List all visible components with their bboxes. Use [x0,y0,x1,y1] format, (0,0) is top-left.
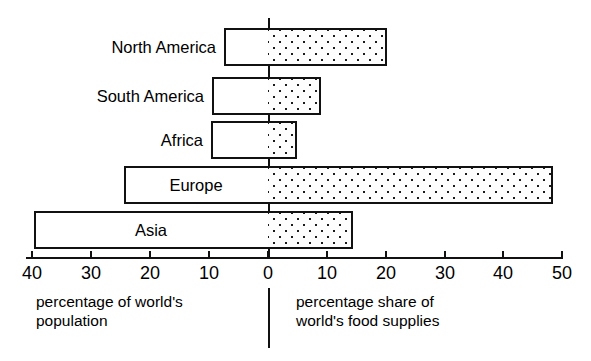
bar-population [224,28,268,66]
x-axis-tick-label: 20 [130,262,170,284]
x-axis-tick [149,251,151,258]
bar-food-share [268,28,387,66]
x-axis-tick-label: 10 [307,262,347,284]
axis-label-right-line1: percentage share of [296,292,546,311]
x-axis-tick-label: 10 [189,262,229,284]
bar-population [211,121,268,159]
x-axis-tick [385,251,387,258]
axis-label-right: percentage share of world's food supplie… [296,292,546,330]
x-axis-tick-label: 20 [366,262,406,284]
axis-label-left-line1: percentage of world's [36,292,256,311]
x-axis-tick [561,251,563,258]
x-axis-tick [90,251,92,258]
x-axis-line [26,257,563,259]
caption-divider [268,288,270,348]
x-axis-tick [31,251,33,258]
bar-row: North America [0,28,591,66]
bar-category-label-outside: North America [20,28,216,66]
bar-population [124,166,268,204]
axis-label-right-line2: world's food supplies [296,311,546,330]
x-axis-tick-label: 50 [542,262,582,284]
bar-population [212,77,268,115]
x-axis-tick [326,251,328,258]
x-axis-tick-label: 30 [425,262,465,284]
bar-row: Africa [0,121,591,159]
bar-food-share [268,77,321,115]
bar-category-label-outside: South America [20,77,204,115]
x-axis-tick-label: 40 [483,262,523,284]
bar-food-share [268,166,553,204]
axis-label-left-line2: population [36,311,256,330]
x-axis-tick-label: 30 [71,262,111,284]
bar-food-share [268,211,353,249]
plot-area: North AmericaSouth AmericaAfricaEuropeAs… [0,0,591,361]
bar-row: Asia [0,211,591,249]
x-axis-tick [502,251,504,258]
x-axis-tick [444,251,446,258]
chart-container: North AmericaSouth AmericaAfricaEuropeAs… [0,0,591,361]
bar-food-share [268,121,297,159]
bar-population [34,211,268,249]
bar-row: Europe [0,166,591,204]
x-axis-tick [267,251,269,258]
axis-label-left: percentage of world's population [36,292,256,330]
bar-category-label-outside: Africa [20,121,203,159]
bar-row: South America [0,77,591,115]
x-axis-tick-label: 40 [12,262,52,284]
x-axis-tick [208,251,210,258]
x-axis-tick-label: 0 [248,262,288,284]
